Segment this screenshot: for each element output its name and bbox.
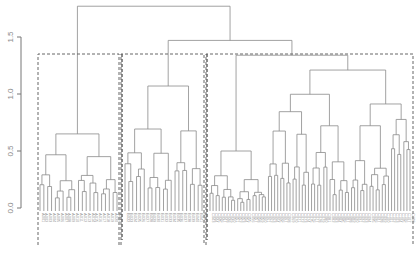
y-tick-1-0: 1.0 bbox=[6, 88, 15, 100]
y-tick-0-5: 0.5 bbox=[6, 145, 15, 157]
leaf-labels: A001A002A003A004A005A006A007A008A009A010… bbox=[41, 213, 416, 223]
dendrogram-chart: 0.0 0.5 1.0 1.5 A001A002A003A004A005A006… bbox=[0, 0, 418, 253]
y-tick-0: 0.0 bbox=[6, 202, 15, 214]
dendrogram-svg: 0.0 0.5 1.0 1.5 A001A002A003A004A005A006… bbox=[0, 0, 418, 253]
y-tick-1-5: 1.5 bbox=[6, 31, 15, 43]
dendrogram-tree bbox=[40, 6, 410, 211]
y-axis: 0.0 0.5 1.0 1.5 bbox=[6, 31, 21, 214]
